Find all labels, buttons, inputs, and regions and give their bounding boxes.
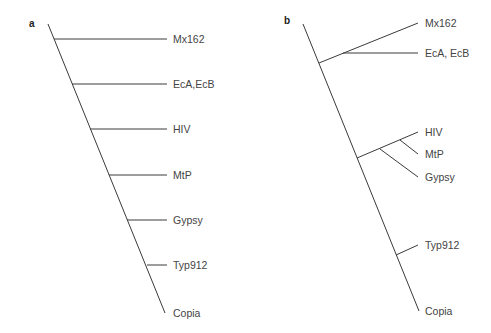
panel-b-branch-gypsy xyxy=(380,149,418,177)
panel-b-branch-mx162 xyxy=(319,23,418,63)
panel-b-branch-typ912 xyxy=(396,245,418,255)
panel-b-taxon-label: EcA, EcB xyxy=(425,47,469,59)
panel-a-label: a xyxy=(29,18,35,29)
panel-b-taxon-label: MtP xyxy=(425,148,444,160)
panel-b-taxon-label: Copia xyxy=(425,305,453,317)
panel-b-taxon-label: Typ912 xyxy=(425,239,460,251)
panel-a-taxon-label: Copia xyxy=(173,307,201,319)
phylogeny-figure: a Mx162 EcA,EcB HIV MtP Gypsy Typ912 Cop… xyxy=(0,0,491,333)
panel-a-taxon-label: MtP xyxy=(173,169,192,181)
panel-a-taxon-label: Gypsy xyxy=(173,214,204,226)
panel-a-taxon-label: Mx162 xyxy=(173,33,205,45)
panel-a-trunk xyxy=(48,24,165,313)
panel-b-taxon-label: HIV xyxy=(425,126,443,138)
panel-a-taxon-label: HIV xyxy=(173,123,191,135)
panel-b-taxon-label: Mx162 xyxy=(425,17,457,29)
panel-b: b Mx162 EcA, EcB HIV MtP Gypsy Typ912 Co… xyxy=(284,15,469,317)
panel-a: a Mx162 EcA,EcB HIV MtP Gypsy Typ912 Cop… xyxy=(29,18,214,319)
panel-a-taxon-label: Typ912 xyxy=(173,259,208,271)
panel-b-label: b xyxy=(284,15,290,26)
panel-b-trunk xyxy=(303,24,419,311)
panel-b-taxon-label: Gypsy xyxy=(425,171,456,183)
panel-a-taxon-label: EcA,EcB xyxy=(173,78,214,90)
panel-b-branch-mtp xyxy=(400,140,418,154)
